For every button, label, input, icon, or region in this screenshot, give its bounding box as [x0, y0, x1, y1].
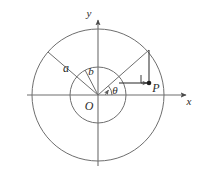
labels-group: a b O P θ x y	[63, 7, 192, 113]
label-a: a	[63, 61, 69, 75]
theta-tick	[106, 90, 109, 95]
figure-canvas: a b O P θ x y	[0, 0, 199, 181]
label-p: P	[151, 81, 160, 95]
geometry-figure: a b O P θ x y	[0, 0, 199, 181]
terminal-ray-line	[98, 50, 149, 95]
point-p-dot	[147, 81, 152, 86]
label-y-axis: y	[86, 7, 92, 19]
label-origin: O	[85, 99, 94, 113]
point-p-group	[147, 81, 152, 86]
label-theta: θ	[112, 84, 118, 96]
label-b: b	[88, 65, 94, 77]
label-x-axis: x	[186, 95, 192, 107]
terminal-ray-group	[98, 50, 149, 95]
construction-group	[119, 50, 149, 83]
